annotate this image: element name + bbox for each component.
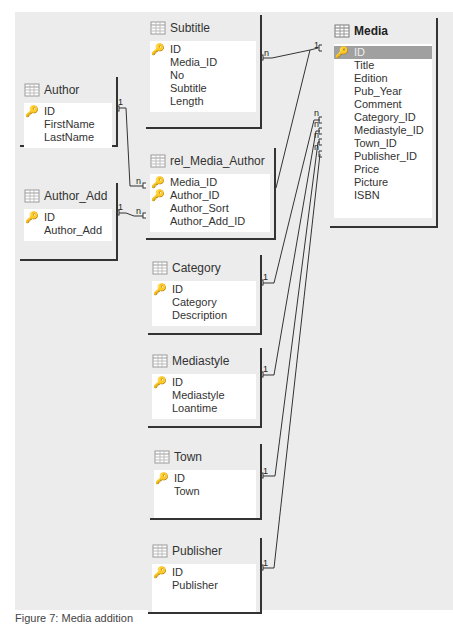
field-name: FirstName: [40, 118, 95, 131]
field-row[interactable]: Author_Add_ID: [150, 215, 270, 228]
table-header[interactable]: rel_Media_Author: [146, 148, 274, 174]
field-row[interactable]: Mediastyle_ID: [334, 124, 432, 137]
field-name: Author_Add_ID: [166, 215, 245, 228]
field-row[interactable]: 🔑Author_ID: [150, 189, 270, 202]
field-row[interactable]: Publisher: [152, 579, 256, 592]
table-name: rel_Media_Author: [170, 154, 265, 168]
table-category[interactable]: Category 🔑ID Category Description: [148, 255, 262, 335]
field-row[interactable]: Category: [152, 296, 256, 309]
field-row[interactable]: Description: [152, 309, 256, 322]
field-row[interactable]: Title: [334, 59, 432, 72]
cardinality-1: 1: [263, 364, 268, 374]
field-row[interactable]: No: [150, 69, 256, 82]
field-row[interactable]: Picture: [334, 176, 432, 189]
field-row[interactable]: Price: [334, 163, 432, 176]
cardinality-1: 1: [118, 202, 123, 212]
cardinality-n: n: [136, 206, 141, 216]
table-header[interactable]: Subtitle: [146, 15, 260, 41]
table-header[interactable]: Category: [148, 255, 260, 281]
key-icon: 🔑: [154, 472, 170, 485]
field-row[interactable]: Media_ID: [150, 56, 256, 69]
table-mediastyle[interactable]: Mediastyle 🔑ID Mediastyle Loantime: [148, 348, 262, 428]
field-row[interactable]: Length: [150, 95, 256, 108]
field-name: ID: [170, 472, 185, 485]
field-row[interactable]: Author_Add: [24, 224, 112, 237]
key-icon: 🔑: [150, 176, 166, 189]
field-row[interactable]: 🔑ID: [154, 472, 256, 485]
field-name: Media_ID: [166, 176, 217, 189]
field-row[interactable]: Edition: [334, 72, 432, 85]
table-header[interactable]: Author_Add: [20, 183, 116, 209]
field-row[interactable]: Author_Sort: [150, 202, 270, 215]
field-row-selected[interactable]: 🔑ID: [334, 46, 432, 59]
table-icon: [152, 544, 168, 558]
field-row[interactable]: Pub_Year: [334, 85, 432, 98]
field-name: Price: [350, 163, 379, 176]
field-row[interactable]: Town_ID: [334, 137, 432, 150]
table-icon: [334, 24, 350, 38]
cardinality-1: 1: [263, 272, 268, 282]
field-row[interactable]: Publisher_ID: [334, 150, 432, 163]
cardinality-1: 1: [118, 97, 123, 107]
key-icon: 🔑: [152, 566, 168, 579]
cardinality-n: n: [314, 130, 319, 140]
field-row[interactable]: 🔑ID: [152, 566, 256, 579]
field-row[interactable]: 🔑Media_ID: [150, 176, 270, 189]
table-publisher[interactable]: Publisher 🔑ID Publisher: [148, 538, 262, 614]
field-row[interactable]: Comment: [334, 98, 432, 111]
field-name: Comment: [350, 98, 402, 111]
field-row[interactable]: Town: [154, 485, 256, 498]
field-row[interactable]: ISBN: [334, 189, 432, 202]
field-name: ID: [40, 105, 55, 118]
table-author[interactable]: Author 🔑ID FirstName LastName: [20, 77, 118, 147]
field-name: ISBN: [350, 189, 380, 202]
table-icon: [150, 154, 166, 168]
table-header[interactable]: Town: [150, 444, 260, 470]
key-icon: 🔑: [24, 211, 40, 224]
table-icon: [152, 261, 168, 275]
table-name: Media: [354, 24, 388, 38]
field-row[interactable]: 🔑ID: [152, 283, 256, 296]
table-media[interactable]: Media 🔑ID Title Edition Pub_Year Comment…: [330, 18, 438, 228]
field-name: Mediastyle: [168, 389, 225, 402]
table-header[interactable]: Publisher: [148, 538, 260, 564]
field-name: Media_ID: [166, 56, 217, 69]
field-name: Length: [166, 95, 204, 108]
table-rel-media-author[interactable]: rel_Media_Author 🔑Media_ID 🔑Author_ID Au…: [146, 148, 276, 240]
table-name: Author_Add: [44, 189, 107, 203]
cardinality-1: 1: [314, 40, 319, 50]
table-subtitle[interactable]: Subtitle 🔑ID Media_ID No Subtitle Length: [146, 15, 262, 129]
field-name: Description: [168, 309, 227, 322]
key-icon: 🔑: [152, 283, 168, 296]
table-name: Town: [174, 450, 202, 464]
field-row[interactable]: 🔑ID: [152, 376, 256, 389]
field-name: Subtitle: [166, 82, 207, 95]
table-icon: [150, 21, 166, 35]
field-row[interactable]: 🔑ID: [150, 43, 256, 56]
field-row[interactable]: Category_ID: [334, 111, 432, 124]
table-header[interactable]: Author: [20, 77, 116, 103]
field-row[interactable]: Mediastyle: [152, 389, 256, 402]
cardinality-n: n: [314, 142, 319, 152]
table-author-add[interactable]: Author_Add 🔑ID Author_Add: [20, 183, 118, 261]
key-icon: 🔑: [152, 376, 168, 389]
table-icon: [24, 189, 40, 203]
table-name: Subtitle: [170, 21, 210, 35]
cardinality-n: n: [264, 48, 269, 58]
field-row[interactable]: 🔑ID: [24, 105, 112, 118]
field-row[interactable]: LastName: [24, 131, 112, 144]
figure-caption: Figure 7: Media addition: [15, 612, 133, 624]
field-row[interactable]: FirstName: [24, 118, 112, 131]
field-name: Picture: [350, 176, 388, 189]
cardinality-1: 1: [263, 466, 268, 476]
table-header[interactable]: Mediastyle: [148, 348, 260, 374]
table-town[interactable]: Town 🔑ID Town: [150, 444, 262, 520]
cardinality-n: n: [314, 108, 319, 118]
field-row[interactable]: Loantime: [152, 402, 256, 415]
field-row[interactable]: 🔑ID: [24, 211, 112, 224]
field-name: ID: [350, 46, 365, 59]
field-name: Town: [170, 485, 200, 498]
table-header[interactable]: Media: [330, 18, 436, 44]
table-icon: [24, 83, 40, 97]
field-row[interactable]: Subtitle: [150, 82, 256, 95]
